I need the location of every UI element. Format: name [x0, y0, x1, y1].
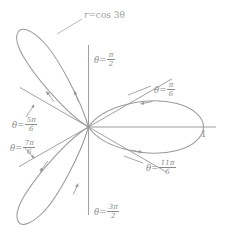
denominator: 6: [25, 125, 37, 133]
leader-line-theta-pi-over-6: [128, 86, 151, 95]
equation-expression: cos 3θ: [96, 10, 125, 20]
fraction: π 2: [107, 52, 115, 69]
theta-label-pi-over-2: θ= π 2: [94, 52, 115, 69]
denominator: 6: [167, 90, 175, 98]
denominator: 2: [107, 212, 119, 220]
denominator: 6: [159, 168, 176, 176]
direction-arrow-upper-left-inner: [75, 92, 79, 101]
equals-sign: =: [15, 143, 22, 153]
direction-arrow-lower-left-inner: [74, 185, 78, 194]
fraction: π 6: [167, 82, 175, 99]
direction-arrow-upper-left-outer: [47, 93, 54, 102]
leader-lines-group: [24, 19, 151, 163]
equals-sign: =: [151, 163, 158, 173]
fraction: 3π 2: [107, 204, 119, 221]
equals-sign: =: [99, 55, 106, 65]
fraction: 7π 6: [23, 140, 35, 157]
theta-label-pi-over-6: θ= π 6: [154, 82, 175, 99]
theta-label-11pi-over-6: θ= 11π 6: [146, 160, 176, 177]
denominator: 6: [23, 148, 35, 156]
equals-sign: =: [17, 120, 24, 130]
theta-label-7pi-over-6: θ= 7π 6: [10, 140, 35, 157]
equals-sign: =: [99, 207, 106, 217]
theta-label-5pi-over-6: θ= 5π 6: [12, 117, 37, 134]
equation-equals: =: [88, 10, 96, 20]
denominator: 2: [107, 60, 115, 68]
fraction: 5π 6: [25, 117, 37, 134]
theta-label-3pi-over-2: θ= 3π 2: [94, 204, 119, 221]
curve-equation-label: r=cos 3θ: [84, 11, 125, 20]
fraction: 11π 6: [159, 160, 176, 177]
axis-tick-label-1: 1: [201, 130, 206, 139]
equals-sign: =: [159, 85, 166, 95]
petal-upper-left: [17, 29, 89, 127]
polar-axes-group: [19, 45, 216, 215]
leader-line-title: [57, 19, 82, 34]
polar-rose-curve-diagram: r=cos 3θ θ= π 2 θ= π 6 θ= 5π 6 θ= 7π 6 θ…: [0, 0, 228, 246]
